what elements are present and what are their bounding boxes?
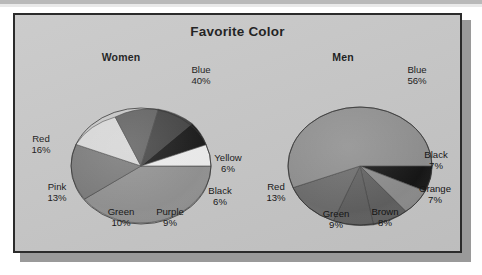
women-label-red-name: Red: [32, 133, 50, 144]
women-label-yellow-name: Yellow: [214, 152, 241, 163]
women-label-green: Green 10%: [98, 206, 144, 229]
men-label-orange-pct: 7%: [408, 194, 462, 205]
women-label-black-pct: 6%: [197, 196, 243, 207]
figure-root: Favorite Color Women Men: [0, 0, 482, 275]
women-label-black: Black 6%: [197, 185, 243, 208]
men-label-blue-name: Blue: [407, 64, 426, 75]
chart-panel: Favorite Color Women Men: [13, 13, 462, 253]
page-title: Favorite Color: [15, 24, 460, 39]
men-label-green-pct: 9%: [313, 219, 359, 230]
men-label-brown: Brown 8%: [361, 206, 409, 229]
women-label-black-name: Black: [208, 185, 231, 196]
women-label-purple: Purple 9%: [146, 206, 194, 229]
men-pie-outline: [288, 107, 432, 225]
women-label-purple-name: Purple: [156, 206, 184, 217]
men-label-red-pct: 13%: [256, 192, 296, 203]
women-label-pink-pct: 13%: [37, 192, 77, 203]
men-label-orange-name: Orange: [419, 183, 451, 194]
women-label-blue-pct: 40%: [177, 75, 225, 86]
men-label-orange: Orange 7%: [408, 183, 462, 206]
men-label-black-pct: 7%: [414, 160, 458, 171]
men-label-blue: Blue 56%: [393, 64, 441, 87]
women-label-blue-name: Blue: [191, 64, 210, 75]
men-label-red: Red 13%: [256, 181, 296, 204]
women-label-pink-name: Pink: [48, 181, 67, 192]
men-label-black: Black 7%: [414, 149, 458, 172]
women-label-yellow-pct: 6%: [202, 163, 254, 174]
men-label-brown-pct: 8%: [361, 217, 409, 228]
women-label-green-pct: 10%: [98, 217, 144, 228]
men-chart-heading: Men: [283, 51, 403, 63]
men-label-green: Green 9%: [313, 208, 359, 231]
men-label-black-name: Black: [424, 149, 447, 160]
women-label-green-name: Green: [108, 206, 135, 217]
women-chart-heading: Women: [61, 51, 181, 63]
women-label-red-pct: 16%: [21, 144, 61, 155]
women-label-blue: Blue 40%: [177, 64, 225, 87]
page-top-strip-highlight: [0, 4, 482, 7]
women-label-purple-pct: 9%: [146, 217, 194, 228]
men-label-green-name: Green: [323, 208, 350, 219]
women-label-red: Red 16%: [21, 133, 61, 156]
men-label-red-name: Red: [267, 181, 285, 192]
men-label-blue-pct: 56%: [393, 75, 441, 86]
women-label-yellow: Yellow 6%: [202, 152, 254, 175]
men-label-brown-name: Brown: [371, 206, 398, 217]
women-label-pink: Pink 13%: [37, 181, 77, 204]
